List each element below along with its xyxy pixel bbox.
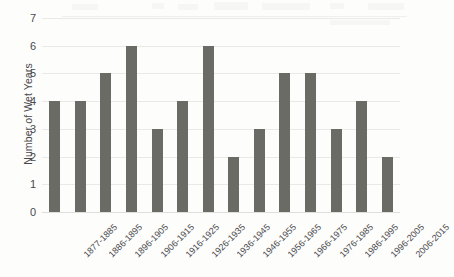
bar-series — [42, 18, 400, 212]
y-tick-label-6: 6 — [6, 40, 36, 52]
bar — [75, 101, 86, 212]
gridline-0 — [42, 212, 400, 213]
bar — [279, 73, 290, 212]
bar — [382, 157, 393, 212]
y-tick-label-4: 4 — [6, 95, 36, 107]
y-tick-label-3: 3 — [6, 123, 36, 135]
bar — [228, 157, 239, 212]
y-tick-label-0: 0 — [6, 206, 36, 218]
y-tick-label-5: 5 — [6, 67, 36, 79]
bar — [49, 101, 60, 212]
bar — [305, 73, 316, 212]
bar — [331, 129, 342, 212]
y-tick-label-7: 7 — [6, 12, 36, 24]
plot-area: 01234567 — [42, 18, 400, 212]
bar — [254, 129, 265, 212]
y-tick-label-2: 2 — [6, 151, 36, 163]
bar — [126, 46, 137, 212]
bar — [100, 73, 111, 212]
bar — [177, 101, 188, 212]
bar — [152, 129, 163, 212]
y-tick-label-1: 1 — [6, 178, 36, 190]
y-axis-title: Number of Wet Years — [22, 29, 34, 199]
bar — [356, 101, 367, 212]
bar — [203, 46, 214, 212]
x-axis-labels: 1877-18851886-18951896-19051906-19151916… — [42, 214, 400, 277]
